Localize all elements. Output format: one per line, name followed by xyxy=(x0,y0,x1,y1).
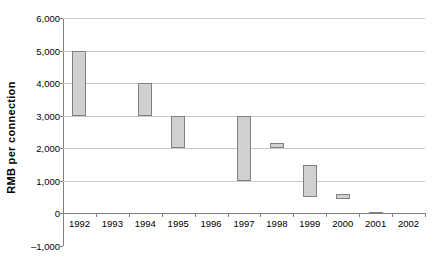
x-axis-tick-label: 1998 xyxy=(266,218,287,229)
y-axis-tick-label: 0 xyxy=(14,208,60,219)
x-axis-tick-mark xyxy=(425,213,426,217)
y-axis-tick-label: 3,000 xyxy=(14,110,60,121)
y-axis-tick-label: 6,000 xyxy=(14,13,60,24)
x-axis-tick-label: 1993 xyxy=(102,218,123,229)
y-axis-tick-label: 2,000 xyxy=(14,143,60,154)
x-axis-tick-label: 1999 xyxy=(299,218,320,229)
x-axis-tick-label: 1994 xyxy=(135,218,156,229)
x-axis-tick-label: 2001 xyxy=(365,218,386,229)
x-axis-tick-label: 1992 xyxy=(69,218,90,229)
chart-figure: RMB per connection 6,0005,0004,0003,0002… xyxy=(0,0,442,275)
y-axis-tick-labels: 6,0005,0004,0003,0002,0001,0000–1,000 xyxy=(0,0,60,275)
x-axis-tick-label: 1996 xyxy=(201,218,222,229)
x-axis-tick-label: 2000 xyxy=(332,218,353,229)
x-axis-tick-labels: 1992199319941995199619971998199920002001… xyxy=(63,0,425,275)
y-axis-tick-label: 1,000 xyxy=(14,175,60,186)
x-axis-tick-label: 1997 xyxy=(233,218,254,229)
x-axis-tick-label: 1995 xyxy=(168,218,189,229)
y-axis-tick-label: 5,000 xyxy=(14,45,60,56)
x-axis-tick-label: 2002 xyxy=(398,218,419,229)
y-axis-tick-label: 4,000 xyxy=(14,78,60,89)
y-axis-tick-label: –1,000 xyxy=(14,241,60,252)
